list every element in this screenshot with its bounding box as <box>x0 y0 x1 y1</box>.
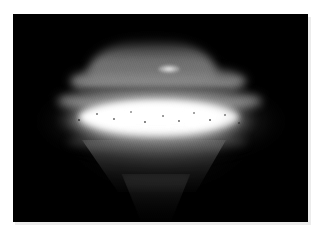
lower-tail-cone <box>117 174 195 220</box>
object-halo <box>43 32 278 207</box>
equatorial-core-bright <box>57 94 262 144</box>
dome-highlight-spot <box>158 65 180 73</box>
dither-grain-texture <box>13 14 308 222</box>
photograph <box>13 14 308 222</box>
mid-grey-band <box>57 88 262 114</box>
lower-hull <box>79 140 229 192</box>
equatorial-core-glow <box>41 84 281 159</box>
upper-deck-band <box>70 64 246 98</box>
core-speckles <box>73 106 248 130</box>
vignette <box>13 14 308 222</box>
deck-seam-line <box>81 86 231 95</box>
under-rim-shadow <box>67 134 247 150</box>
equatorial-core-hotspot <box>79 101 239 133</box>
upper-dome <box>87 39 217 85</box>
image-canvas <box>0 0 322 239</box>
